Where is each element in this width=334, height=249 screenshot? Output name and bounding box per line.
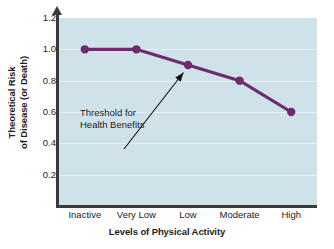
x-axis-tick-labels: InactiveVery LowLowModerateHigh xyxy=(59,209,317,225)
chart-figure: Theoretical Risk of Disease (or Death) 1… xyxy=(0,0,334,249)
data-point-marker xyxy=(235,76,243,84)
series-markers xyxy=(81,45,296,116)
annotation-line1: Threshold for xyxy=(80,107,144,119)
x-axis-tick-label: Moderate xyxy=(220,209,260,221)
data-point-marker xyxy=(287,108,295,116)
x-axis-tick-label: High xyxy=(281,209,301,221)
data-point-marker xyxy=(184,61,192,69)
x-axis-title: Levels of Physical Activity xyxy=(0,226,334,237)
threshold-annotation-text: Threshold for Health Benefits xyxy=(80,107,144,131)
data-point-marker xyxy=(132,45,140,53)
annotation-line2: Health Benefits xyxy=(80,119,144,131)
x-axis-tick-label: Very Low xyxy=(117,209,156,221)
x-axis-tick-label: Inactive xyxy=(68,209,101,221)
x-axis-tick-label: Low xyxy=(179,209,196,221)
series-line xyxy=(85,49,291,112)
data-point-marker xyxy=(81,45,89,53)
